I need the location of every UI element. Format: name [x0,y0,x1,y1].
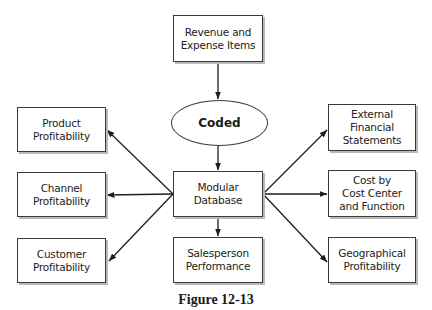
external-financial-statements-box: External Financial Statements [328,104,416,151]
figure-caption: Figure 12-13 [0,292,432,308]
channel-profitability-box: Channel Profitability [17,172,106,217]
revenue-expense-items-box: Revenue and Expense Items [173,15,263,62]
box-label-line: Cost Center [339,187,404,200]
modular-database-box: Modular Database [173,171,263,217]
box-label-line: Database [194,194,243,207]
box-label-line: Product [33,117,90,130]
box-label-line: External [343,108,402,121]
box-label-line: Financial [343,121,402,134]
arrow-database-to-geographical [263,194,327,262]
box-label-line: Channel [33,182,90,195]
box-label-line: Modular [194,181,243,194]
geographical-profitability-box: Geographical Profitability [328,237,416,283]
box-label-line: Cost by [339,174,404,187]
salesperson-performance-box: Salesperson Performance [173,237,263,283]
box-label-line: Statements [343,134,402,147]
arrow-database-to-channel [107,194,173,195]
box-label-line: Profitability [33,261,90,274]
box-label-line: Performance [186,260,250,273]
box-label-line: Expense Items [181,39,256,52]
box-label-line: Profitability [33,195,90,208]
arrow-database-to-product [107,130,173,194]
coded-process-ellipse: Coded [171,100,268,146]
ellipse-label: Coded [198,116,240,130]
box-label-line: Salesperson [186,247,250,260]
box-label-line: Profitability [338,260,405,273]
box-label-line: Geographical [338,247,405,260]
box-label-line: and Function [339,200,404,213]
cost-by-cost-center-box: Cost by Cost Center and Function [328,170,416,217]
box-label-line: Revenue and [181,26,256,39]
box-label-line: Profitability [33,130,90,143]
arrow-database-to-external [263,130,327,194]
arrow-database-to-customer [109,194,173,261]
diagram-canvas: Revenue and Expense Items Coded Modular … [0,0,432,310]
customer-profitability-box: Customer Profitability [17,238,106,283]
product-profitability-box: Product Profitability [17,107,106,152]
box-label-line: Customer [33,248,90,261]
